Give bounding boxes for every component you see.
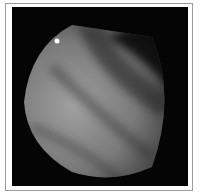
tissue-view bbox=[12, 7, 188, 186]
endoscopic-image bbox=[12, 7, 188, 186]
light-reflection bbox=[55, 39, 60, 44]
